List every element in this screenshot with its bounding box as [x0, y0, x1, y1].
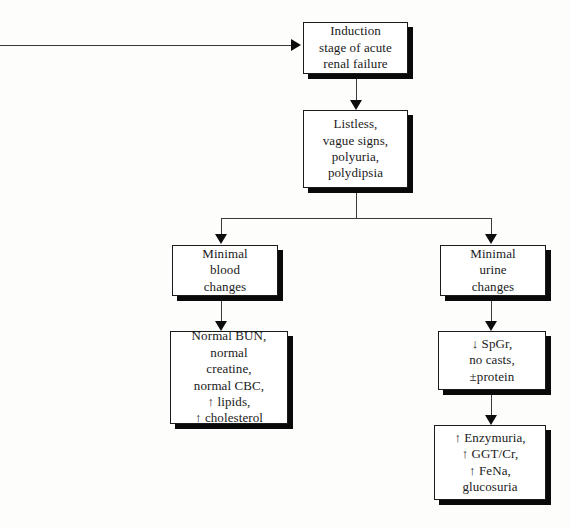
- node-minimal-urine-changes: Minimal urine changes: [440, 245, 546, 296]
- flowchart-diagram: Induction stage of acute renal failure L…: [0, 0, 571, 528]
- node-enzymuria-findings-label: ↑ Enzymuria, ↑ GGT/Cr, ↑ FeNa, glucosuri…: [439, 430, 541, 496]
- node-minimal-urine-changes-label: Minimal urine changes: [445, 246, 541, 295]
- node-clinical-signs-label: Listless, vague signs, polyuria, polydip…: [308, 116, 403, 182]
- node-induction-stage-label: Induction stage of acute renal failure: [308, 23, 403, 72]
- node-blood-findings: Normal BUN, normal creatine, normal CBC,…: [170, 331, 288, 424]
- node-urine-findings: ↓ SpGr, no casts, ±protein: [438, 331, 546, 390]
- node-blood-findings-label: Normal BUN, normal creatine, normal CBC,…: [175, 328, 283, 426]
- urine-to-findings-arrowhead: [485, 321, 497, 331]
- urine-findings-to-enzymuria-arrowhead: [485, 415, 497, 425]
- induction-to-signs-arrowhead: [350, 100, 362, 110]
- node-minimal-blood-changes-label: Minimal blood changes: [177, 246, 273, 295]
- node-enzymuria-findings: ↑ Enzymuria, ↑ GGT/Cr, ↑ FeNa, glucosuri…: [434, 425, 546, 500]
- inflow-arrowhead: [291, 39, 301, 51]
- blood-branch-arrowhead: [215, 234, 227, 244]
- node-minimal-blood-changes: Minimal blood changes: [172, 245, 278, 296]
- inflow-line: [0, 45, 293, 46]
- node-clinical-signs: Listless, vague signs, polyuria, polydip…: [303, 110, 408, 188]
- node-induction-stage: Induction stage of acute renal failure: [303, 22, 408, 74]
- node-urine-findings-label: ↓ SpGr, no casts, ±protein: [443, 336, 541, 385]
- signs-split-crossbar: [221, 218, 492, 219]
- signs-split-stem: [356, 193, 357, 219]
- urine-branch-arrowhead: [485, 234, 497, 244]
